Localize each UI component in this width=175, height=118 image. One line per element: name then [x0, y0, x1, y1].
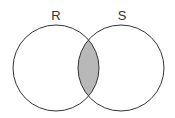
set-r-label: R — [51, 8, 60, 23]
set-s-label: S — [118, 8, 127, 23]
venn-diagram: R S — [0, 0, 175, 118]
